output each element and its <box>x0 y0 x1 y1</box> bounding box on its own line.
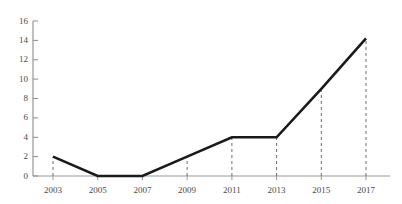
y-axis-label-8: 8 <box>8 94 28 103</box>
y-axis-ticks <box>33 21 38 176</box>
x-axis-label-2003: 2003 <box>33 186 73 195</box>
x-axis-label-2007: 2007 <box>122 186 162 195</box>
droplines <box>53 38 366 176</box>
y-axis-label-16: 16 <box>8 17 28 26</box>
y-axis-label-4: 4 <box>8 133 28 142</box>
data-line-series-1 <box>53 38 366 176</box>
x-axis-label-2009: 2009 <box>167 186 207 195</box>
x-axis-label-2011: 2011 <box>212 186 252 195</box>
y-axis-label-12: 12 <box>8 55 28 64</box>
y-axis-label-0: 0 <box>8 172 28 181</box>
y-axis-label-6: 6 <box>8 113 28 122</box>
x-axis-label-2015: 2015 <box>301 186 341 195</box>
y-axis-label-14: 14 <box>8 36 28 45</box>
chart-container: 16 14 12 10 8 6 4 2 0 2003 2005 2007 200… <box>0 0 402 204</box>
x-axis-label-2017: 2017 <box>346 186 386 195</box>
y-axis-label-2: 2 <box>8 152 28 161</box>
x-axis-label-2013: 2013 <box>257 186 297 195</box>
y-axis-label-10: 10 <box>8 75 28 84</box>
x-axis-label-2005: 2005 <box>78 186 118 195</box>
chart-plot-area <box>0 0 402 204</box>
